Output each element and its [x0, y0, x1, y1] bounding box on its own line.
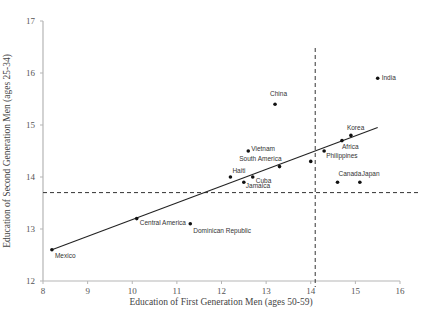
x-tick-label: 9: [85, 286, 90, 296]
x-tick-label: 15: [351, 286, 361, 296]
point-label: Korea: [347, 124, 365, 131]
y-axis-title: Education of Second Generation Men (ages…: [2, 54, 13, 248]
data-point: [336, 180, 340, 184]
x-axis-title: Education of First Generation Men (ages …: [129, 297, 312, 308]
y-tick-label: 15: [26, 120, 36, 130]
point-label: Africa: [342, 143, 359, 150]
point-label: Mexico: [55, 252, 76, 259]
data-point: [188, 222, 192, 226]
data-point: [50, 248, 54, 252]
data-point: [349, 134, 353, 138]
data-point: [376, 76, 380, 80]
data-point: [278, 165, 282, 169]
point-label: Haiti: [232, 167, 245, 174]
y-tick-label: 13: [26, 224, 36, 234]
x-tick-label: 14: [306, 286, 316, 296]
data-point: [229, 175, 233, 179]
x-tick-label: 8: [41, 286, 46, 296]
data-point: [251, 175, 255, 179]
data-point: [309, 160, 313, 164]
reference-lines: [43, 48, 418, 287]
data-point: [273, 102, 277, 106]
x-tick-label: 11: [173, 286, 182, 296]
y-tick-label: 17: [26, 16, 36, 26]
scatter-chart: 8910111213141516121314151617 MexicoCentr…: [0, 0, 430, 323]
y-tick-label: 12: [26, 276, 35, 286]
x-tick-label: 13: [262, 286, 272, 296]
point-label: Cuba: [256, 177, 272, 184]
x-tick-label: 16: [396, 286, 406, 296]
point-label: South America: [239, 155, 282, 162]
y-tick-label: 14: [26, 172, 36, 182]
data-point: [358, 180, 362, 184]
data-point: [246, 149, 250, 153]
point-label: Central America: [140, 219, 187, 226]
y-tick-label: 16: [26, 68, 36, 78]
data-point: [135, 217, 139, 221]
point-label: Japan: [362, 170, 380, 178]
point-label: Philippines: [326, 152, 358, 160]
point-label: Canada: [339, 170, 362, 177]
x-tick-label: 12: [217, 286, 226, 296]
point-label: Vietnam: [251, 145, 275, 152]
point-label: Dominican Republic: [193, 227, 252, 235]
point-label: India: [382, 74, 396, 81]
point-label: China: [270, 90, 287, 97]
x-tick-label: 10: [128, 286, 138, 296]
